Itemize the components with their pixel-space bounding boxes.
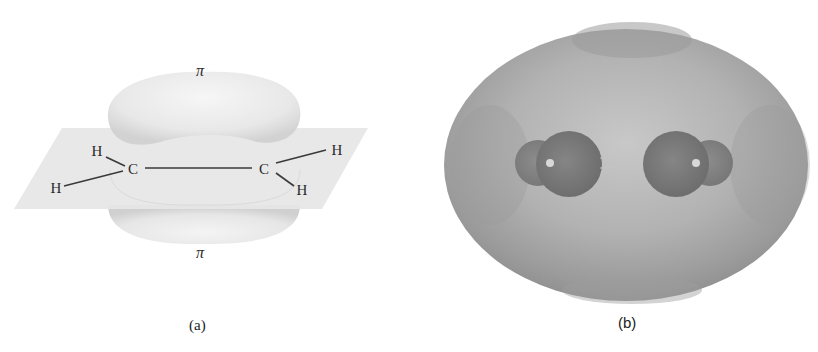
panel-b-electron-density-model: (b) bbox=[410, 0, 818, 352]
lower-pi-lobe bbox=[108, 205, 300, 244]
electron-density-surface bbox=[410, 0, 818, 352]
atom-c-left: C bbox=[128, 161, 138, 177]
pi-orbital-illustration: π π H H C C H H bbox=[0, 0, 410, 352]
atom-h-lower-left: H bbox=[51, 180, 62, 196]
atom-h-lower-right: H bbox=[297, 182, 308, 198]
caption-a: (a) bbox=[189, 317, 206, 334]
atom-h-upper-right: H bbox=[332, 142, 343, 158]
upper-pi-lobe bbox=[108, 72, 301, 145]
caption-b: (b) bbox=[618, 314, 636, 331]
atom-h-upper-left: H bbox=[92, 143, 103, 159]
panel-a-pi-orbital-diagram: π π H H C C H H (a) bbox=[0, 0, 410, 352]
pi-label-bottom: π bbox=[196, 244, 205, 261]
atom-c-right: C bbox=[259, 161, 269, 177]
pi-label-top: π bbox=[196, 62, 205, 79]
